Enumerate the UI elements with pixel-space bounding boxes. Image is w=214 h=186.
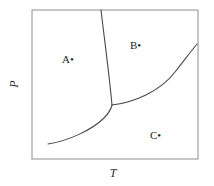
region-marker-b-dot: •	[137, 39, 141, 51]
region-label-a-text: A	[62, 53, 70, 65]
region-label-c: C•	[150, 130, 161, 141]
pressure-axis-label: P	[8, 74, 20, 94]
region-label-a: A•	[62, 54, 74, 65]
region-marker-c-dot: •	[157, 129, 161, 141]
phase-diagram-figure: P T A• B• C•	[0, 0, 214, 186]
temperature-axis-label: T	[105, 167, 121, 179]
region-label-b: B•	[130, 40, 141, 51]
region-marker-a-dot: •	[70, 53, 74, 65]
phase-diagram-canvas	[0, 0, 214, 186]
plot-frame	[32, 10, 198, 159]
